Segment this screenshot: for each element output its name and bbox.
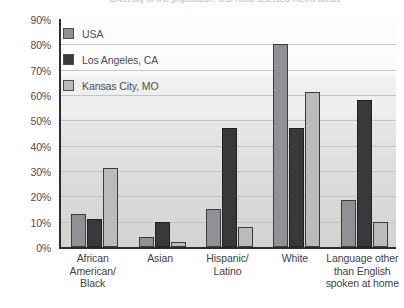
x-axis-category-label-line: Latino xyxy=(188,265,267,278)
y-axis-tick-label: 50% xyxy=(31,115,51,127)
bar xyxy=(171,242,186,247)
bar xyxy=(87,219,102,247)
y-axis-tick-label: 10% xyxy=(31,217,51,229)
y-axis: 90%80%70%60%50%40%30%20%10%0% xyxy=(0,0,56,308)
y-axis-tick-label: 30% xyxy=(31,166,51,178)
legend-swatch-kansas-city xyxy=(63,80,74,91)
bar xyxy=(139,237,154,247)
bar xyxy=(273,44,288,247)
legend-item-label: USA xyxy=(82,28,103,40)
legend: USALos Angeles, CAKansas City, MO xyxy=(63,21,203,99)
legend-swatch-los-angeles xyxy=(63,54,74,65)
bar xyxy=(357,100,372,247)
bar xyxy=(305,92,320,247)
legend-item-label: Los Angeles, CA xyxy=(82,54,158,66)
bar xyxy=(71,214,86,247)
bar xyxy=(341,200,356,247)
y-axis-tick-label: 80% xyxy=(31,39,51,51)
y-axis-tick-label: 40% xyxy=(31,141,51,153)
x-axis: AfricanAmerican/BlackAsianHispanic/Latin… xyxy=(59,252,396,308)
chart-title-clipped: Diversity of the population, USA and sel… xyxy=(60,0,390,5)
bar xyxy=(222,128,237,247)
y-axis-tick-label: 0% xyxy=(36,242,51,254)
bar xyxy=(289,128,304,247)
y-axis-tick-label: 90% xyxy=(31,14,51,26)
x-axis-category-label-line: American/ xyxy=(53,265,132,278)
legend-swatch-usa xyxy=(63,28,74,39)
y-axis-tick-label: 70% xyxy=(31,65,51,77)
y-axis-tick-label: 20% xyxy=(31,191,51,203)
x-axis-category-label-line: Language other xyxy=(323,252,402,265)
legend-item[interactable]: USA xyxy=(63,21,203,46)
x-axis-category-label-line: than English xyxy=(323,265,402,278)
legend-item-label: Kansas City, MO xyxy=(82,80,159,92)
bar xyxy=(373,222,388,247)
legend-item[interactable]: Los Angeles, CA xyxy=(63,47,203,72)
y-axis-tick-label: 60% xyxy=(31,90,51,102)
bar xyxy=(103,168,118,247)
x-axis-category-label-line: Black xyxy=(53,277,132,290)
legend-item[interactable]: Kansas City, MO xyxy=(63,73,203,98)
bar xyxy=(155,222,170,247)
bar xyxy=(206,209,221,247)
x-axis-category-label-line: spoken at home xyxy=(323,277,402,290)
bar xyxy=(238,227,253,247)
bar-chart-figure: Diversity of the population, USA and sel… xyxy=(0,0,404,308)
x-axis-category-label: Language otherthan Englishspoken at home xyxy=(323,252,402,290)
